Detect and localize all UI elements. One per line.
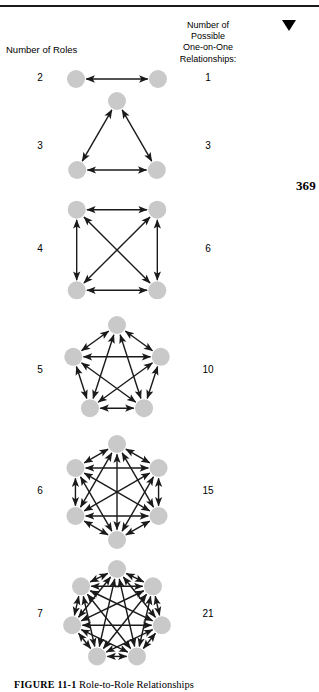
relationship-edge [125,331,152,351]
role-node [64,348,82,366]
complete-graph-n5 [0,322,319,420]
relationship-edge [90,573,108,581]
role-node [150,459,168,477]
role-node [72,577,90,595]
role-node [149,70,167,88]
relationship-edge [82,363,136,402]
column-header-line-3: One-on-One [160,42,256,53]
relationship-edge [81,477,112,531]
role-node [150,507,168,525]
complete-graph-n2 [0,56,319,104]
relationship-edge [74,596,78,615]
role-node [68,201,86,219]
role-node [68,161,86,179]
role-node [81,399,99,417]
role-node [108,316,126,334]
complete-graph-n6 [0,441,319,543]
role-node [88,647,106,665]
triangle-down-icon[interactable] [282,20,296,31]
role-node [108,560,126,578]
role-node [128,647,146,665]
relationship-edge [84,521,108,535]
relationship-edge [155,596,159,615]
role-node [135,399,153,417]
role-node [153,616,171,634]
complete-graph-n7 [0,566,319,664]
role-node [148,281,166,299]
role-nodes [68,92,166,179]
role-node [148,161,166,179]
column-header-line-1: Number of [160,20,256,31]
complete-graph-n3 [0,98,319,198]
role-nodes [63,560,171,665]
top-rule-divider [0,5,319,7]
role-node [108,92,126,110]
relationship-edge [147,366,157,398]
figure-page: 369 Number of Roles Number of Possible O… [0,0,319,692]
relationship-edge [120,335,141,399]
complete-graph-n4 [0,190,319,310]
relationship-edges [76,331,157,408]
role-node [68,281,86,299]
relationship-edge [81,630,127,652]
relationship-edge [79,633,91,648]
relationship-edge [106,630,152,652]
relationship-edge [82,110,112,161]
figure-caption: FIGURE 11-1 Role-to-Role Relationships [14,679,194,690]
column-header-line-2: Possible [160,31,256,42]
relationship-edge [98,363,152,402]
figure-caption-label: FIGURE 11-1 [14,679,76,690]
relationship-edge [143,633,155,648]
figure-caption-text: Role-to-Role Relationships [79,679,194,690]
role-node [66,459,84,477]
role-node [63,616,81,634]
role-node [67,70,85,88]
relationship-edges [77,210,158,291]
column-header-number-of-roles: Number of Roles [6,44,77,55]
role-node [148,201,166,219]
relationship-edge [81,591,143,621]
role-node [108,531,126,549]
relationship-edge [126,449,150,463]
relationship-edge [82,331,109,351]
role-nodes [64,316,170,417]
relationship-edges [75,449,158,535]
relationship-edge [126,521,150,535]
relationship-edges [82,110,151,170]
relationship-edge [90,591,152,621]
role-node [144,577,162,595]
role-node [108,435,126,453]
relationship-edge [84,449,108,463]
relationship-edge [76,366,86,398]
relationship-edge [122,110,152,161]
relationship-edge [126,573,144,581]
relationship-edge [93,335,114,399]
role-node [66,507,84,525]
role-node [152,348,170,366]
